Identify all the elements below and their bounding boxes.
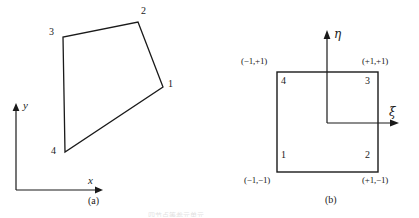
x-axis-arrowhead [95, 187, 103, 194]
vertex-label-4: 4 [51, 146, 56, 156]
panel-b-caption: (b) [325, 195, 337, 205]
y-axis-arrowhead [13, 103, 20, 111]
vertex-label-2: 2 [141, 6, 146, 16]
vertex-label-1: 1 [168, 79, 173, 89]
y-axis-label: y [23, 100, 28, 111]
figure-container: 1 2 3 4 y x (a) 1 2 3 4 (−1,+1) (+1,+1) … [0, 0, 419, 218]
parent-vertex-label-1: 1 [281, 150, 286, 160]
parent-coord-label-1: (−1,−1) [244, 176, 270, 185]
x-axis-label: x [88, 175, 93, 186]
parent-coord-label-2: (+1,−1) [362, 176, 388, 185]
parent-coord-label-3: (+1,+1) [362, 57, 388, 66]
parent-coord-label-4: (−1,+1) [241, 57, 267, 66]
vertex-label-3: 3 [49, 27, 54, 37]
parent-vertex-label-3: 3 [365, 76, 370, 86]
eta-axis-arrowhead [324, 30, 331, 39]
parent-vertex-label-2: 2 [365, 150, 370, 160]
clipped-footer-text: 四节点等参元单元 [148, 210, 280, 217]
eta-axis-label: η [334, 28, 341, 40]
panel-b-parent-element: 1 2 3 4 (−1,+1) (+1,+1) (−1,−1) (+1,−1) … [210, 0, 419, 218]
panel-b-drawing [210, 0, 419, 218]
parent-vertex-label-4: 4 [281, 76, 286, 86]
xi-axis-arrowhead [390, 120, 399, 127]
panel-a-drawing [0, 0, 210, 218]
panel-a-caption: (a) [88, 196, 99, 206]
panel-a-physical-element: 1 2 3 4 y x (a) [0, 0, 210, 218]
quadrilateral-element [63, 22, 163, 152]
xi-axis-label: ξ [389, 106, 396, 118]
